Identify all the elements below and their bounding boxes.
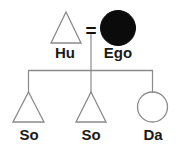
node-label-hu: Hu xyxy=(45,45,85,60)
male-triangle-son-1 xyxy=(13,92,44,122)
male-triangle-hu xyxy=(51,12,81,43)
male-triangle-son-2 xyxy=(76,92,106,122)
node-label-son-2: So xyxy=(71,127,111,142)
marriage-union-symbol: = xyxy=(81,21,101,40)
node-label-ego: Ego xyxy=(98,45,138,60)
node-label-son-1: So xyxy=(9,127,49,142)
female-circle-ego-filled xyxy=(101,11,136,46)
female-circle-daughter-open xyxy=(138,92,168,122)
node-label-daughter: Da xyxy=(133,127,173,142)
kinship-diagram: = Hu Ego So So Da xyxy=(0,0,176,150)
